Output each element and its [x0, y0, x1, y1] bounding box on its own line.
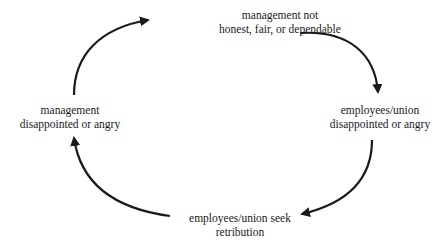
node-employees-seek-retribution: employees/union seek retribution: [170, 211, 310, 239]
arrow-bottom-to-left: [74, 138, 170, 216]
node-employees-disappointed: employees/union disappointed or angry: [320, 103, 440, 131]
arrow-right-to-bottom: [302, 140, 372, 214]
node-management-not-honest: management not honest, fair, or dependab…: [180, 8, 380, 36]
arrow-top-to-right: [300, 33, 378, 92]
arrow-left-to-top: [74, 20, 148, 95]
node-management-disappointed: management disappointed or angry: [10, 103, 130, 131]
